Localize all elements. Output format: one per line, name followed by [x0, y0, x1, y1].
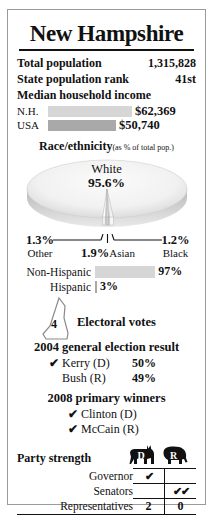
hispanic-bar-fill: [95, 281, 97, 293]
party-strength-block: Party strength D R Governor ✔ Senators: [17, 446, 196, 515]
party-strength-header: Party strength D R: [17, 446, 196, 468]
pie-legend-value: 1.3%: [17, 234, 63, 247]
pie-legend-value: 1.9%: [81, 246, 109, 260]
income-bar-label: N.H.: [17, 105, 48, 118]
pie-legend: 1.3% Other 1.9%Asian 1.2% Black: [17, 234, 196, 264]
elephant-letter: R: [170, 450, 178, 461]
party-row-rep: ✔✔: [165, 484, 197, 499]
party-row-label: Governor: [17, 469, 133, 484]
candidate-row-kerry: ✔ Kerry (D) 50%: [17, 356, 196, 371]
income-bar-row-usa: USA $50,740: [17, 119, 196, 132]
income-bar-track: $50,740: [48, 120, 196, 131]
hispanic-bar-track: 3%: [95, 281, 196, 293]
party-strength-table: Governor ✔ Senators ✔✔ Representatives 2…: [17, 468, 196, 515]
income-bar-fill: [48, 106, 132, 117]
donkey-icon: D: [128, 444, 158, 468]
new-hampshire-state-icon: [37, 296, 77, 342]
table-row: Representatives 2 0: [17, 499, 196, 515]
hispanic-bar-fill: [95, 266, 155, 278]
general-2004-title: 2004 general election result: [17, 340, 196, 355]
pie-legend-value: 1.2%: [153, 234, 198, 247]
electoral-votes-count: 4: [51, 317, 57, 332]
party-row-rep: 0: [165, 499, 197, 515]
median-income-heading: Median household income: [17, 88, 196, 103]
pie-legend-other: 1.3% Other: [17, 234, 63, 260]
candidate-name: Kerry (D): [62, 356, 132, 371]
income-bar-track: $62,369: [48, 106, 196, 117]
pie-main-value: 95.6%: [88, 175, 125, 190]
hispanic-bar-row-non-hispanic: Non-Hispanic 97%: [17, 265, 196, 279]
income-bar-row-nh: N.H. $62,369: [17, 105, 196, 118]
stat-value: 1,315,828: [148, 56, 196, 71]
hispanic-bar-value: 3%: [100, 280, 118, 293]
electoral-votes-label: Electoral votes: [77, 315, 156, 330]
primary-name: Clinton (D): [81, 407, 145, 422]
income-bar-value: $62,369: [135, 105, 176, 118]
pie-legend-name: Black: [153, 247, 198, 260]
stat-label: State population rank: [17, 72, 129, 87]
donkey-letter: D: [138, 450, 145, 461]
pie-main-label: White 95.6%: [17, 162, 196, 190]
income-bar-label: USA: [17, 119, 48, 132]
state-fact-card: New Hampshire Total population 1,315,828…: [7, 9, 206, 505]
party-row-dem: ✔: [133, 469, 165, 484]
hispanic-bar-label: Non-Hispanic: [17, 265, 95, 279]
check-icon: ✔: [68, 422, 81, 437]
income-bar-fill: [48, 120, 116, 131]
candidate-row-bush: Bush (R) 49%: [17, 371, 196, 386]
income-bar-value: $50,740: [119, 119, 160, 132]
check-icon: ✔: [68, 407, 81, 422]
stat-value: 41st: [175, 72, 196, 87]
hispanic-bar-track: 97%: [95, 266, 196, 278]
party-row-rep: [165, 469, 197, 484]
stat-label: Total population: [17, 56, 102, 71]
party-row-label: Senators: [17, 484, 133, 499]
candidate-pct: 49%: [132, 371, 164, 386]
party-strength-title: Party strength: [17, 451, 91, 468]
pie-legend-black: 1.2% Black: [153, 234, 198, 260]
table-row: Governor ✔: [17, 469, 196, 484]
candidate-pct: 50%: [132, 356, 164, 371]
pie-main-name: White: [91, 162, 122, 176]
candidate-name: Bush (R): [62, 371, 132, 386]
pie-legend-name: Asian: [109, 247, 135, 259]
race-ethnicity-heading: Race/ethnicity(as % of total pop.): [17, 139, 196, 154]
party-row-label: Representatives: [17, 499, 133, 515]
stat-row-total-population: Total population 1,315,828: [17, 56, 196, 71]
pie-legend-name: Other: [17, 247, 63, 260]
race-ethnicity-note: (as % of total pop.): [112, 143, 174, 152]
primary-name: McCain (R): [81, 422, 145, 437]
pie-legend-asian: 1.9%Asian: [69, 247, 147, 260]
party-mascots: D R: [128, 444, 196, 468]
party-row-dem: [133, 484, 165, 499]
race-pie-chart: White 95.6%: [17, 156, 196, 234]
hispanic-bar-value: 97%: [158, 265, 182, 278]
electoral-votes-block: 4 Electoral votes: [17, 298, 196, 340]
elephant-icon: R: [160, 444, 190, 468]
primary-2008-title: 2008 primary winners: [17, 391, 196, 406]
title-divider: [19, 49, 194, 51]
table-row: Senators ✔✔: [17, 484, 196, 499]
page-title: New Hampshire: [17, 20, 196, 47]
primary-row-mccain: ✔ McCain (R): [17, 422, 196, 437]
race-ethnicity-title: Race/ethnicity: [39, 139, 112, 153]
hispanic-bar-row-hispanic: Hispanic 3%: [17, 280, 196, 294]
primary-row-clinton: ✔ Clinton (D): [17, 407, 196, 422]
party-row-dem: 2: [133, 499, 165, 515]
check-icon: ✔: [49, 356, 62, 371]
stat-row-population-rank: State population rank 41st: [17, 72, 196, 87]
hispanic-bar-label: Hispanic: [17, 280, 95, 294]
